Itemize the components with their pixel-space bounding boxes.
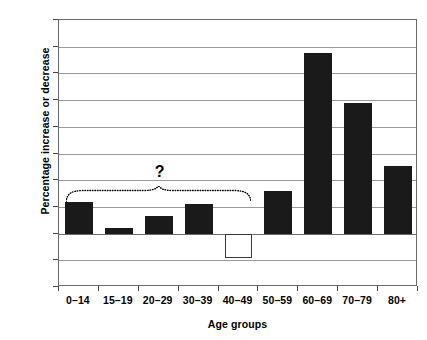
gridline bbox=[59, 260, 416, 261]
bar-70-79 bbox=[344, 103, 372, 234]
x-tick-mark bbox=[178, 286, 179, 291]
x-tick-mark bbox=[138, 286, 139, 291]
x-tick-mark bbox=[257, 286, 258, 291]
bar-50-59 bbox=[264, 191, 292, 233]
x-tick-mark bbox=[377, 286, 378, 291]
plot-area: ? bbox=[58, 19, 417, 286]
x-tick-label: 80+ bbox=[367, 294, 427, 306]
bar-0-14 bbox=[65, 202, 93, 234]
bar-40-49 bbox=[225, 234, 253, 258]
chart-container: Percentage increase or decrease 80706050… bbox=[0, 0, 427, 340]
gridline bbox=[59, 47, 416, 48]
bar-15-19 bbox=[105, 228, 133, 233]
x-tick-mark bbox=[417, 286, 418, 291]
bar-60-69 bbox=[304, 53, 332, 233]
x-tick-mark bbox=[98, 286, 99, 291]
bar-30-39 bbox=[185, 204, 213, 233]
bar-20-29 bbox=[145, 216, 173, 233]
bar-80- bbox=[384, 166, 412, 234]
gridline bbox=[59, 73, 416, 74]
question-mark-annotation: ? bbox=[155, 164, 165, 180]
x-tick-mark bbox=[337, 286, 338, 291]
x-tick-mark bbox=[218, 286, 219, 291]
x-tick-mark bbox=[58, 286, 59, 291]
x-axis-title: Age groups bbox=[58, 318, 417, 330]
x-tick-mark bbox=[297, 286, 298, 291]
y-axis-title: Percentage increase or decrease bbox=[39, 1, 51, 261]
gridline bbox=[59, 100, 416, 101]
dotted-curly-brace-annotation bbox=[66, 186, 251, 204]
